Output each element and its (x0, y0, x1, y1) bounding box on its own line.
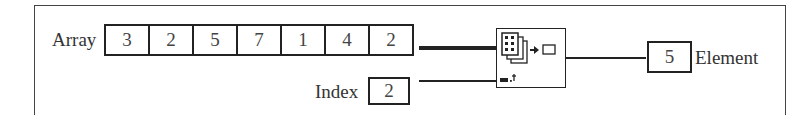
index-array-icon (497, 29, 565, 87)
element-indicator: 5 (647, 41, 692, 73)
array-element[interactable]: 7 (238, 26, 282, 54)
element-label: Element (695, 48, 758, 67)
index-label: Index (315, 82, 358, 101)
index-array-node[interactable] (496, 28, 566, 88)
index-wire (419, 80, 497, 82)
array-element[interactable]: 1 (282, 26, 326, 54)
array-element[interactable]: 3 (106, 26, 150, 54)
element-wire (565, 57, 646, 59)
array-element[interactable]: 2 (150, 26, 194, 54)
array-element[interactable]: 5 (194, 26, 238, 54)
array-label: Array (52, 30, 96, 49)
array-wire (419, 46, 497, 50)
array-element[interactable]: 2 (370, 26, 412, 54)
array-control[interactable]: 3 2 5 7 1 4 2 (104, 24, 414, 56)
index-control[interactable]: 2 (368, 77, 410, 105)
array-element[interactable]: 4 (326, 26, 370, 54)
